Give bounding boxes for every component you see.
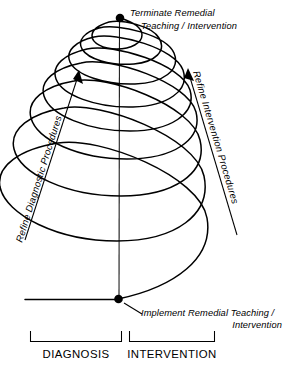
refine-diagnostic-arrow-head	[73, 70, 83, 84]
spiral-helix	[0, 18, 208, 299]
top-vertex-dot	[116, 14, 125, 23]
implement-label-line1: Implement Remedial Teaching /	[141, 308, 276, 318]
refine-intervention-arrow-shaft	[189, 74, 237, 235]
diagram-canvas: Terminate Remedial Teaching / Interventi…	[0, 0, 300, 367]
terminate-label-line2: Teaching / Intervention	[141, 21, 237, 31]
diagnosis-bracket	[30, 331, 122, 342]
refine-intervention-group: Refine Intervention Procedures	[184, 68, 241, 235]
refine-diagnostic-group: Refine Diagnostic Procedures	[13, 70, 83, 244]
refine-diagnostic-arrow-shaft	[25, 76, 78, 240]
terminate-label-line1: Terminate Remedial	[130, 8, 215, 18]
spiral-diagram-figure: Terminate Remedial Teaching / Interventi…	[0, 0, 300, 367]
intervention-bracket	[129, 331, 215, 342]
implement-label-line2: Intervention	[232, 320, 282, 330]
bottom-vertex-dot	[114, 295, 123, 304]
intervention-caption: INTERVENTION	[127, 348, 216, 360]
diagnosis-caption: DIAGNOSIS	[43, 348, 110, 360]
implement-leader-line	[124, 303, 142, 314]
